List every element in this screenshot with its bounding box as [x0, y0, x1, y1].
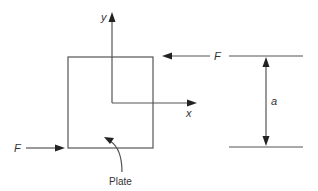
x-axis: x	[112, 100, 197, 120]
force-bottom-label: F	[14, 142, 22, 154]
dimension-top-arrowhead-icon	[263, 57, 270, 67]
x-axis-label: x	[185, 107, 192, 119]
dimension-a: a	[263, 57, 278, 146]
force-bottom-arrowhead-icon	[55, 145, 65, 152]
x-axis-arrowhead-icon	[187, 100, 197, 107]
force-top: F	[162, 50, 222, 62]
plate-pointer	[104, 137, 122, 172]
plate-force-diagram: y x F F a Plate	[0, 0, 318, 191]
y-axis-label: y	[100, 11, 108, 23]
y-axis-arrowhead-icon	[109, 12, 116, 22]
force-bottom: F	[14, 142, 65, 154]
dimension-bottom-arrowhead-icon	[263, 136, 270, 146]
dimension-label: a	[271, 95, 277, 107]
plate-label: Plate	[109, 176, 132, 187]
force-top-arrowhead-icon	[162, 53, 172, 60]
force-top-label: F	[214, 50, 222, 62]
